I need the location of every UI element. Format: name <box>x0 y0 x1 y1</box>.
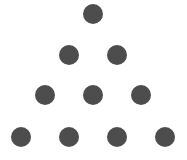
dot-row3-2 <box>83 85 103 105</box>
dot-row2-2 <box>107 45 127 65</box>
dot-row4-3 <box>107 127 127 147</box>
dot-row4-2 <box>59 127 79 147</box>
dot-row1-1 <box>83 4 103 24</box>
dot-row4-1 <box>11 127 31 147</box>
dot-row3-1 <box>35 85 55 105</box>
dot-row4-4 <box>155 127 175 147</box>
dot-triangle-diagram <box>0 0 187 160</box>
dot-row2-1 <box>59 45 79 65</box>
dot-row3-3 <box>131 85 151 105</box>
